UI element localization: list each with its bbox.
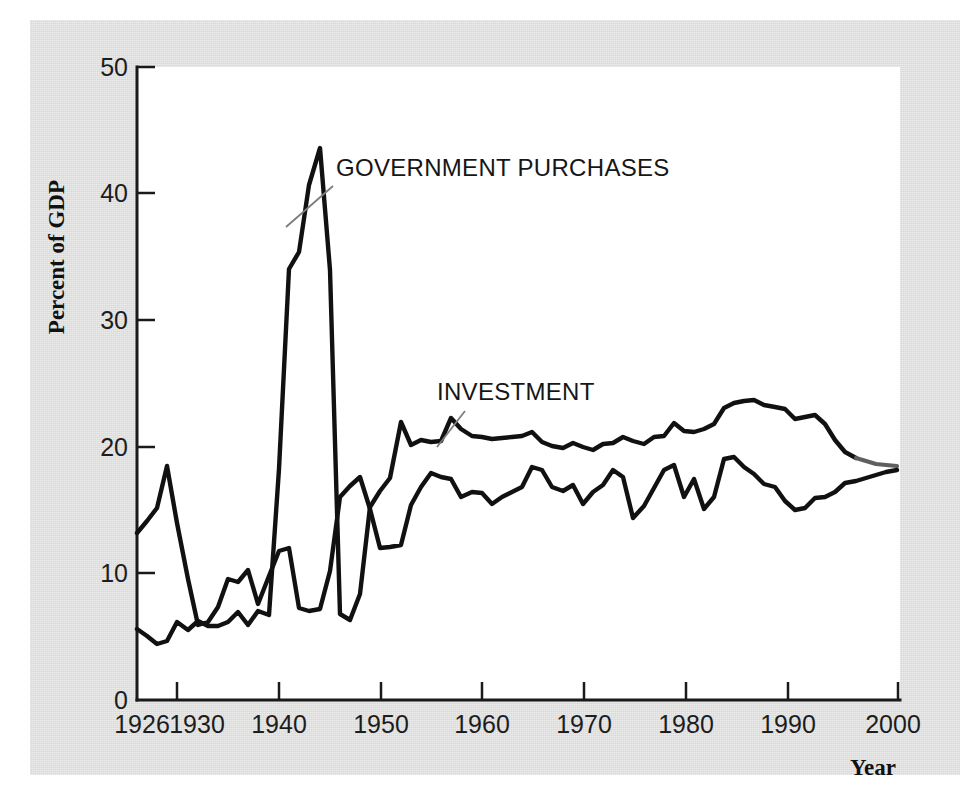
y-axis-title: Percent of GDP (44, 180, 69, 334)
x-tick-label-1960: 1960 (454, 710, 510, 738)
y-tick-label-10: 10 (100, 559, 128, 587)
x-tick-label-2000: 2000 (865, 710, 921, 738)
y-tick-label-50: 50 (100, 53, 128, 81)
annotation-government-purchases: GOVERNMENT PURCHASES (336, 154, 670, 181)
chart-canvas: 50 40 30 20 10 0 1926 1930 1940 1950 196… (0, 0, 977, 808)
x-tick-label-1980: 1980 (658, 710, 714, 738)
x-tick-label-1940: 1940 (251, 710, 307, 738)
y-tick-label-40: 40 (100, 179, 128, 207)
x-axis-title: Year (850, 755, 896, 780)
x-tick-label-1950: 1950 (353, 710, 409, 738)
annotation-investment: INVESTMENT (437, 378, 595, 405)
y-tick-label-20: 20 (100, 433, 128, 461)
y-tick-label-30: 30 (100, 306, 128, 334)
x-tick-label-1930: 1930 (169, 710, 225, 738)
x-tick-label-1926: 1926 (114, 710, 170, 738)
x-tick-label-1990: 1990 (760, 710, 816, 738)
x-tick-label-1970: 1970 (556, 710, 612, 738)
